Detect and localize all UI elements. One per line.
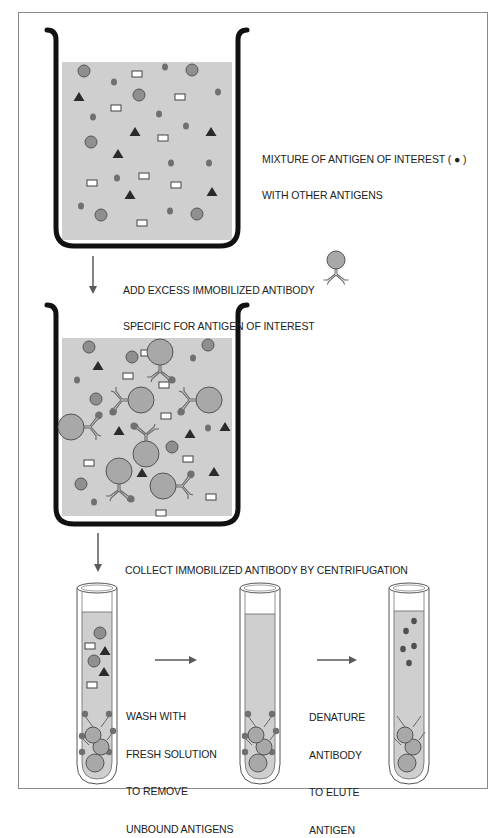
bound-antigen <box>187 470 194 477</box>
antigen-of-interest <box>162 63 168 70</box>
eluted-antigen <box>406 660 412 666</box>
step5-label-line2: ANTIBODY <box>309 749 365 762</box>
step5-label: DENATURE ANTIBODY TO ELUTE ANTIGEN <box>309 686 365 838</box>
bead <box>397 727 413 743</box>
tube-rim <box>77 583 117 593</box>
antibody-y <box>324 269 349 285</box>
bound-antigen <box>168 376 175 383</box>
bound-antigen <box>127 495 134 502</box>
bound-antigen <box>79 733 85 739</box>
test-tube-2 <box>240 583 280 784</box>
antibody-bead-sphere <box>128 387 154 413</box>
antigen-of-interest <box>78 202 84 209</box>
immobilized-antibody-icon <box>324 251 349 285</box>
bead <box>85 727 101 743</box>
large-antigen <box>133 89 145 101</box>
beaker-1-liquid <box>62 62 232 240</box>
rectangle-antigen <box>158 135 168 141</box>
large-antigen <box>186 64 198 76</box>
eluted-antigen <box>411 643 417 649</box>
large-antigen <box>88 655 100 667</box>
rectangle-antigen <box>132 71 142 77</box>
step4-label-line3: TO REMOVE <box>126 785 234 798</box>
bound-antigen <box>79 749 85 755</box>
large-antigen <box>166 441 178 453</box>
antigen-of-interest <box>205 424 211 431</box>
antibody-bead-sphere <box>150 473 176 499</box>
beaker-1 <box>47 30 247 246</box>
rectangle-antigen <box>139 173 149 179</box>
bound-antigen <box>273 728 279 734</box>
step1-label-line2: WITH OTHER ANTIGENS <box>262 189 466 201</box>
bead <box>86 754 104 772</box>
antibody-bead-sphere <box>196 387 222 413</box>
bound-antigen <box>110 728 116 734</box>
antigen-of-interest <box>167 207 173 214</box>
rectangle-antigen <box>123 373 133 379</box>
step1-label-line1: MIXTURE OF ANTIGEN OF INTEREST ( ● ) <box>262 153 466 165</box>
step3-label: COLLECT IMMOBILIZED ANTIBODY BY CENTRIFU… <box>125 540 408 600</box>
eluted-antigen <box>403 628 409 634</box>
bound-antigen <box>269 711 275 717</box>
antibody-bead-sphere <box>106 458 132 484</box>
step4-label-line4: UNBOUND ANTIGENS <box>126 823 234 836</box>
step4-label: WASH WITH FRESH SOLUTION TO REMOVE UNBOU… <box>126 685 234 838</box>
antibody-bead-sphere <box>58 414 84 440</box>
antibody-bead <box>324 251 349 285</box>
large-antigen <box>83 341 95 353</box>
antigen-of-interest <box>168 159 174 166</box>
rectangle-antigen <box>84 460 94 466</box>
large-antigen <box>94 627 106 639</box>
large-antigen <box>78 65 90 77</box>
step2-label-line1: ADD EXCESS IMMOBILIZED ANTIBODY <box>123 284 315 296</box>
step5-label-line3: TO ELUTE <box>309 786 365 799</box>
bound-antigen <box>130 422 137 429</box>
antigen-of-interest <box>91 498 97 505</box>
large-antigen <box>191 208 203 220</box>
bound-antigen <box>106 711 112 717</box>
rectangle-antigen <box>111 105 121 111</box>
antigen-of-interest <box>74 376 80 383</box>
large-antigen <box>85 136 97 148</box>
antigen-of-interest <box>206 159 212 166</box>
step4-label-line2: FRESH SOLUTION <box>126 748 234 761</box>
bound-antigen <box>245 711 251 717</box>
rectangle-antigen <box>161 413 171 419</box>
rectangle-antigen <box>175 94 185 100</box>
bead <box>248 727 264 743</box>
eluted-antigen <box>411 618 417 624</box>
rectangle-antigen <box>156 510 166 516</box>
step2-label: ADD EXCESS IMMOBILIZED ANTIBODY SPECIFIC… <box>123 260 315 356</box>
large-antigen <box>90 393 102 405</box>
antigen-of-interest <box>215 88 221 95</box>
bound-antigen <box>242 733 248 739</box>
rectangle-antigen <box>159 382 169 388</box>
rectangle-antigen <box>206 494 216 500</box>
large-antigen <box>75 478 87 490</box>
antibody-bead-sphere <box>133 441 159 467</box>
step1-label: MIXTURE OF ANTIGEN OF INTEREST ( ● ) WIT… <box>262 129 466 225</box>
rectangle-antigen <box>183 456 193 462</box>
antigen-of-interest <box>183 122 189 129</box>
step3-label-text: COLLECT IMMOBILIZED ANTIBODY BY CENTRIFU… <box>125 564 408 576</box>
rectangle-antigen <box>171 182 181 188</box>
rectangle-antigen <box>85 643 95 649</box>
antigen-of-interest <box>114 174 120 181</box>
antigen-of-interest <box>111 78 117 85</box>
eluted-antigen <box>400 646 406 652</box>
antigen-of-interest <box>156 110 162 117</box>
step4-label-line1: WASH WITH <box>126 710 234 723</box>
antibody-bead-sphere <box>327 251 345 269</box>
bead <box>249 754 267 772</box>
step5-label-line1: DENATURE <box>309 711 365 724</box>
antigen-of-interest <box>90 113 96 120</box>
rectangle-antigen <box>87 682 97 688</box>
bound-antigen <box>82 711 88 717</box>
rectangle-antigen <box>87 180 97 186</box>
bead <box>398 754 416 772</box>
bound-antigen <box>109 408 116 415</box>
bound-antigen <box>177 408 184 415</box>
large-antigen <box>95 209 107 221</box>
